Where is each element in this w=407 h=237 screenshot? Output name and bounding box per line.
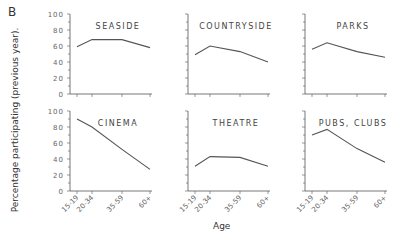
y-tick-label: 60 (53, 140, 64, 148)
y-tick-label: 80 (53, 124, 64, 132)
x-tick-label: 20-34 (75, 193, 95, 213)
series-line (77, 40, 150, 48)
y-tick-label: 100 (48, 11, 64, 19)
series-line (312, 43, 385, 57)
series-line (312, 129, 385, 162)
y-tick-label: 80 (53, 27, 64, 35)
panel-title: THEATRE (212, 119, 260, 128)
x-tick-label: 20-34 (193, 193, 213, 213)
x-tick-label: 35-59 (105, 194, 125, 214)
panel-parks: PARKS (302, 14, 387, 97)
panel-title: SEASIDE (96, 22, 141, 31)
panel-pubs-clubs: 15-1920-3435-5960+PUBS, CLUBS (295, 111, 388, 214)
y-tick-label: 40 (53, 59, 64, 67)
y-tick-label: 100 (48, 108, 64, 116)
x-tick-label: 20-34 (310, 193, 330, 213)
panel-countryside: COUNTRYSIDE (185, 14, 273, 97)
x-tick-label: 60+ (255, 194, 271, 210)
small-multiples-chart: 020406080100SEASIDECOUNTRYSIDEPARKS02040… (0, 0, 407, 237)
series-line (195, 157, 268, 167)
panel-theatre: 15-1920-3435-5960+THEATRE (178, 111, 271, 214)
x-tick-label: 35-59 (223, 194, 243, 214)
x-tick-label: 60+ (372, 194, 388, 210)
y-tick-label: 60 (53, 43, 64, 51)
panel-title: CINEMA (98, 119, 138, 128)
x-tick-label: 60+ (137, 194, 153, 210)
series-line (195, 46, 268, 62)
x-tick-label: 35-59 (340, 194, 360, 214)
panel-title: COUNTRYSIDE (199, 22, 273, 31)
panel-seaside: 020406080100SEASIDE (48, 11, 152, 99)
panel-cinema: 02040608010015-1920-3435-5960+CINEMA (48, 108, 154, 214)
panel-title: PUBS, CLUBS (319, 119, 388, 128)
y-tick-label: 0 (59, 91, 64, 99)
y-tick-label: 20 (53, 75, 64, 83)
y-tick-label: 40 (53, 156, 64, 164)
y-tick-label: 0 (59, 188, 64, 196)
y-tick-label: 20 (53, 172, 64, 180)
panel-title: PARKS (336, 22, 369, 31)
